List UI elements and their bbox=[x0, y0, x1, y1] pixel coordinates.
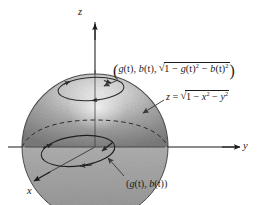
equals-sign: = bbox=[170, 91, 181, 102]
square-root-icon: 1 − g(t)2 − b(t)2 bbox=[159, 62, 229, 74]
diagram-canvas bbox=[0, 0, 266, 205]
one-minus: 1 − bbox=[164, 63, 180, 74]
hemisphere-diagram: (g(t), b(t), 1 − g(t)2 − b(t)2) z = 1 − … bbox=[0, 0, 266, 205]
minus-sign: − bbox=[199, 63, 210, 74]
close-paren: ) bbox=[164, 178, 167, 189]
t-arg-2: (t) bbox=[154, 178, 164, 189]
point-in-plane-label: (g(t), b(t)) bbox=[126, 178, 167, 189]
x-axis-label: x bbox=[27, 185, 32, 196]
radicand: 1 − x2 − y2 bbox=[185, 90, 229, 102]
minus-sign: − bbox=[210, 91, 221, 102]
y-axis-label: y bbox=[243, 140, 248, 151]
specular-highlight bbox=[67, 83, 127, 131]
t-arg-2: (t) bbox=[144, 63, 154, 74]
exponent-2b: 2 bbox=[225, 90, 228, 97]
t-arg-1: (t) bbox=[135, 178, 145, 189]
square-root-icon: 1 − x2 − y2 bbox=[181, 90, 229, 102]
t-arg-4: (t) bbox=[215, 63, 225, 74]
z-axis-label: z bbox=[78, 6, 82, 17]
radicand: 1 − g(t)2 − b(t)2 bbox=[164, 62, 230, 74]
point-on-surface-label: (g(t), b(t), 1 − g(t)2 − b(t)2) bbox=[113, 62, 235, 74]
close-paren: ) bbox=[230, 62, 235, 79]
t-arg-3: (t) bbox=[186, 63, 196, 74]
exponent-2b: 2 bbox=[225, 62, 228, 69]
surface-equation-label: z = 1 − x2 − y2 bbox=[166, 90, 229, 102]
t-arg-1: (t) bbox=[124, 63, 134, 74]
one-minus: 1 − bbox=[186, 91, 202, 102]
